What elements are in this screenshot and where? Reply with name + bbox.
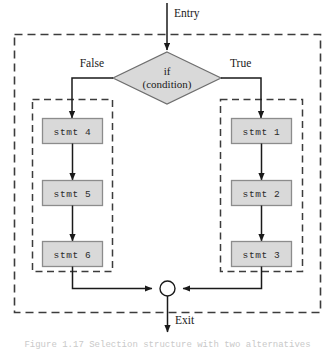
true-statement-2[interactable]: stmt 2 (232, 181, 292, 206)
true-statement-1-label: stmt 1 (243, 127, 281, 138)
false-statement-1[interactable]: stmt 4 (43, 119, 103, 144)
false-branch-connector (72, 78, 113, 118)
true-statement-1[interactable]: stmt 1 (232, 119, 292, 144)
true-branch-label: True (230, 57, 251, 69)
false-branch-label: False (80, 57, 104, 69)
figure-caption: Figure 1.17 Selection structure with two… (24, 340, 310, 349)
flowchart-svg: Entry if (condition) False True stmt 4 s… (0, 0, 335, 349)
false-statement-1-label: stmt 4 (54, 127, 92, 138)
merge-node (160, 281, 175, 296)
exit-label: Exit (175, 314, 195, 326)
true-statement-3[interactable]: stmt 3 (232, 242, 292, 267)
entry-label: Entry (174, 7, 200, 20)
false-merge-path (73, 267, 153, 289)
decision-line1: if (164, 65, 171, 77)
false-statement-3-label: stmt 6 (54, 250, 92, 261)
true-branch-connector (221, 78, 261, 118)
true-merge-path (183, 267, 262, 289)
false-statement-2[interactable]: stmt 5 (43, 181, 103, 206)
true-statement-2-label: stmt 2 (243, 189, 281, 200)
false-statement-2-label: stmt 5 (54, 189, 92, 200)
false-statement-3[interactable]: stmt 6 (43, 242, 103, 267)
decision-line2: (condition) (143, 78, 192, 91)
true-statement-3-label: stmt 3 (243, 250, 281, 261)
figure-container: Entry if (condition) False True stmt 4 s… (0, 0, 335, 349)
